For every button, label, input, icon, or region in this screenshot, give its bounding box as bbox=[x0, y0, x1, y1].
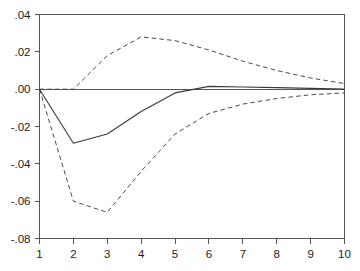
x-tick-label: 6 bbox=[206, 248, 212, 260]
x-tick-label: 8 bbox=[274, 248, 280, 260]
y-axis-tick-labels: .04.02.00-.02-.04-.06-.08 bbox=[11, 9, 31, 245]
x-tick-label: 5 bbox=[172, 248, 178, 260]
impulse-response-chart: .04.02.00-.02-.04-.06-.08 12345678910 bbox=[0, 0, 360, 271]
y-tick-label: -.02 bbox=[11, 121, 31, 133]
series-line-impulse-response bbox=[40, 86, 345, 143]
x-tick-label: 7 bbox=[240, 248, 246, 260]
y-axis-ticks bbox=[35, 15, 40, 239]
y-tick-label: .00 bbox=[15, 83, 31, 95]
series-line-upper-confidence-band bbox=[40, 37, 345, 89]
series-line-lower-confidence-band bbox=[40, 89, 345, 212]
x-tick-label: 10 bbox=[338, 248, 351, 260]
chart-canvas: .04.02.00-.02-.04-.06-.08 12345678910 bbox=[0, 0, 360, 271]
chart-axes bbox=[40, 15, 345, 239]
y-tick-label: -.04 bbox=[11, 158, 31, 170]
x-tick-label: 4 bbox=[138, 248, 145, 260]
x-tick-label: 1 bbox=[36, 248, 42, 260]
x-tick-label: 3 bbox=[104, 248, 110, 260]
x-axis-ticks bbox=[40, 239, 345, 244]
y-tick-label: -.06 bbox=[11, 195, 31, 207]
y-tick-label: .04 bbox=[15, 9, 32, 21]
x-tick-label: 2 bbox=[70, 248, 76, 260]
y-tick-label: -.08 bbox=[11, 233, 31, 245]
x-axis-tick-labels: 12345678910 bbox=[36, 248, 351, 260]
y-tick-label: .02 bbox=[15, 46, 31, 58]
x-tick-label: 9 bbox=[307, 248, 313, 260]
chart-series bbox=[40, 37, 345, 212]
